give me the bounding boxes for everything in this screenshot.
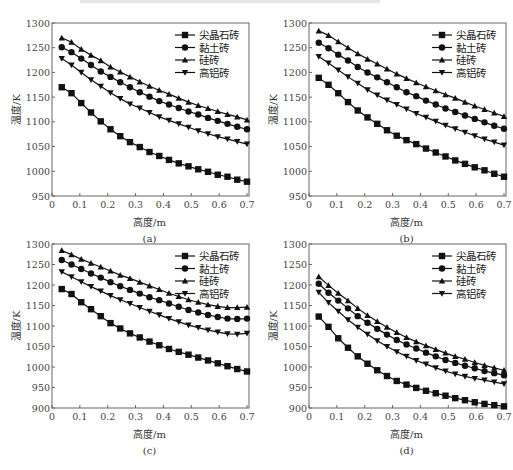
chart-svg: 900950100010501100115012001250130000.10.… [257,240,513,470]
svg-text:1150: 1150 [26,92,50,103]
svg-text:0.6: 0.6 [469,199,484,210]
svg-text:1150: 1150 [283,300,307,311]
series-triangle-down [316,290,508,387]
svg-text:0: 0 [306,411,312,422]
panel-caption: (d) [399,445,413,456]
svg-text:1250: 1250 [26,259,50,270]
svg-text:1300: 1300 [283,18,307,29]
svg-text:950: 950 [289,191,307,202]
chart-panel-b: 950100010501100115012001250130000.10.20.… [257,15,513,250]
svg-text:1300: 1300 [26,18,50,29]
svg-text:950: 950 [289,382,307,393]
series-triangle-down [59,269,251,337]
svg-text:0.5: 0.5 [441,199,456,210]
svg-text:1100: 1100 [26,116,50,127]
legend-label: 黏土砖 [456,42,487,54]
chart-svg: 950100010501100115012001250130000.10.20.… [0,15,256,250]
legend-label: 硅砖 [456,275,477,287]
y-axis-label: 温度/K [267,94,279,125]
y-axis-label: 温度/K [10,94,22,125]
legend-label: 硅砖 [199,275,220,287]
legend-label: 硅砖 [199,54,220,66]
svg-text:1150: 1150 [283,92,307,103]
svg-text:0.7: 0.7 [496,411,511,422]
x-axis-label: 高度/m [390,428,423,440]
svg-text:1050: 1050 [283,141,307,152]
chart-svg: 950100010501100115012001250130000.10.20.… [257,15,513,250]
svg-text:1050: 1050 [26,141,50,152]
svg-text:1050: 1050 [283,341,307,352]
svg-text:1050: 1050 [26,341,50,352]
legend-label: 尖晶石砖 [199,29,240,41]
svg-text:0.3: 0.3 [385,199,400,210]
legend-label: 黏土砖 [199,42,230,54]
svg-text:0.3: 0.3 [385,411,400,422]
legend-label: 高铝砖 [199,67,230,79]
svg-text:0.4: 0.4 [413,199,428,210]
svg-text:1200: 1200 [283,280,307,291]
svg-text:0.4: 0.4 [156,199,171,210]
svg-text:1000: 1000 [283,362,307,373]
legend-label: 尖晶石砖 [456,250,497,262]
svg-text:1250: 1250 [283,42,307,53]
y-axis: 9501000105011001150120012501300 [283,18,312,202]
x-axis-label: 高度/m [390,216,423,228]
svg-text:1200: 1200 [283,67,307,78]
svg-text:0.4: 0.4 [413,411,428,422]
svg-text:0.7: 0.7 [239,199,254,210]
svg-text:900: 900 [32,403,50,414]
svg-text:1100: 1100 [26,321,50,332]
svg-text:1150: 1150 [26,300,50,311]
svg-text:1200: 1200 [26,67,50,78]
svg-text:0.3: 0.3 [128,199,143,210]
svg-text:1000: 1000 [283,166,307,177]
x-axis-label: 高度/m [133,428,166,440]
svg-text:0.5: 0.5 [184,199,199,210]
legend-label: 尖晶石砖 [456,29,497,41]
legend-label: 黏土砖 [456,263,487,275]
legend: 尖晶石砖黏土砖硅砖高铝砖 [432,250,497,300]
svg-text:0.4: 0.4 [156,411,171,422]
svg-text:1300: 1300 [26,240,50,250]
chart-svg: 900950100010501100115012001250130000.10.… [0,240,256,470]
svg-text:0.7: 0.7 [239,411,254,422]
chart-panel-a: 950100010501100115012001250130000.10.20.… [0,15,256,250]
svg-text:0.1: 0.1 [329,411,344,422]
svg-text:0.1: 0.1 [72,199,87,210]
series-square [316,313,508,409]
svg-text:0.2: 0.2 [357,199,372,210]
legend-label: 高铝砖 [456,67,487,79]
svg-text:0.5: 0.5 [441,411,456,422]
svg-text:0.3: 0.3 [128,411,143,422]
svg-text:900: 900 [289,403,307,414]
svg-text:0.1: 0.1 [329,199,344,210]
svg-text:1250: 1250 [283,259,307,270]
x-axis-label: 高度/m [133,216,166,228]
legend: 尖晶石砖黏土砖硅砖高铝砖 [175,250,240,300]
y-axis: 9009501000105011001150120012501300 [283,240,312,414]
svg-text:0.2: 0.2 [100,411,115,422]
svg-text:0.6: 0.6 [212,199,227,210]
svg-text:0.1: 0.1 [72,411,87,422]
legend-label: 尖晶石砖 [199,250,240,262]
legend-label: 黏土砖 [199,263,230,275]
chart-panel-d: 900950100010501100115012001250130000.10.… [257,240,513,470]
y-axis: 9009501000105011001150120012501300 [26,240,55,414]
svg-text:0.2: 0.2 [100,199,115,210]
svg-text:1300: 1300 [283,240,307,250]
svg-text:0: 0 [306,199,312,210]
svg-text:1000: 1000 [26,362,50,373]
svg-text:1200: 1200 [26,280,50,291]
svg-text:0.7: 0.7 [496,199,511,210]
svg-text:950: 950 [32,191,50,202]
y-axis-label: 温度/K [10,310,22,341]
legend: 尖晶石砖黏土砖硅砖高铝砖 [432,29,497,79]
y-axis-label: 温度/K [267,310,279,341]
svg-text:0: 0 [49,199,55,210]
legend: 尖晶石砖黏土砖硅砖高铝砖 [175,29,240,79]
svg-text:0.6: 0.6 [469,411,484,422]
chart-panel-c: 900950100010501100115012001250130000.10.… [0,240,256,470]
panel-caption: (c) [143,445,157,456]
svg-text:1000: 1000 [26,166,50,177]
svg-text:0.2: 0.2 [357,411,372,422]
